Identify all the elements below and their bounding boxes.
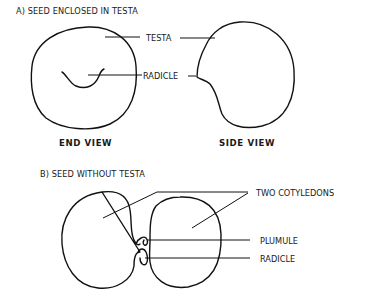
end-view-drawing — [31, 27, 136, 129]
radicle-label-a: RADICLE — [143, 71, 178, 81]
end-view-radicle — [62, 69, 104, 88]
section-b-title: B) SEED WITHOUT TESTA — [40, 169, 145, 179]
testa-label-a: TESTA — [145, 33, 172, 43]
section-a: A) SEED ENCLOSED IN TESTA TESTA RADICLE … — [16, 6, 294, 148]
section-a-title: A) SEED ENCLOSED IN TESTA — [16, 6, 138, 16]
end-view-caption: END VIEW — [59, 138, 112, 148]
end-view-outline — [31, 27, 136, 129]
side-view-caption: SIDE VIEW — [219, 138, 275, 148]
section-b: B) SEED WITHOUT TESTA TWO COTYLEDONS PLU… — [40, 169, 334, 288]
seed-structure-diagram: A) SEED ENCLOSED IN TESTA TESTA RADICLE … — [0, 0, 368, 298]
two-cotyledons-label: TWO COTYLEDONS — [255, 188, 334, 198]
right-cotyledon — [150, 197, 222, 288]
radicle-label-b: RADICLE — [260, 254, 295, 264]
plumule-label: PLUMULE — [260, 236, 298, 246]
